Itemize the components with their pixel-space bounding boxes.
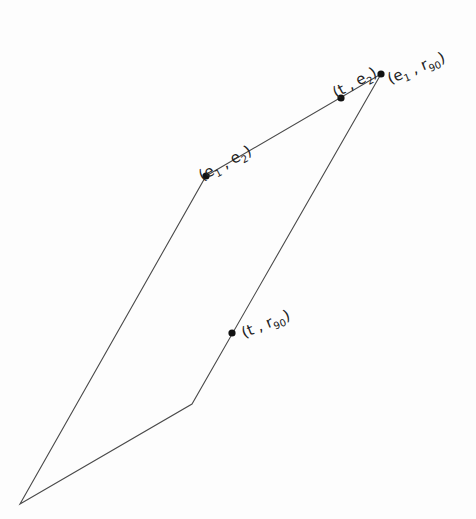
label-t-e2: (t , e2) <box>329 63 380 103</box>
diagram-canvas: (e1 , e2) (t , e2) (e1 , r90) (t , r90) <box>0 0 476 519</box>
label-e1-e2: (e1 , e2) <box>195 142 255 187</box>
quadrilateral-outline <box>20 74 381 504</box>
diagram-svg: (e1 , e2) (t , e2) (e1 , r90) (t , r90) <box>0 0 476 519</box>
point-t-r90 <box>228 329 235 336</box>
label-e1-r90: (e1 , r90) <box>385 48 449 89</box>
label-t-r90: (t , r90) <box>239 306 294 344</box>
point-e1-r90 <box>377 70 384 77</box>
